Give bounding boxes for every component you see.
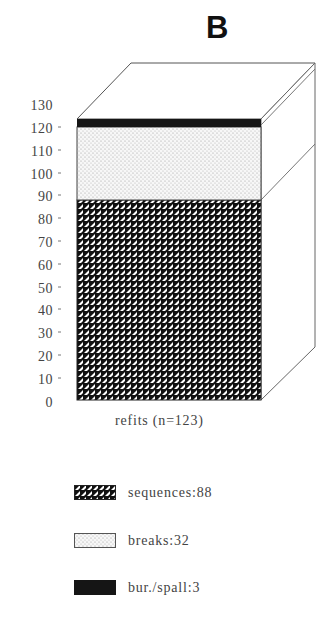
y-tick-label: 130 — [3, 98, 53, 114]
y-tick-label: 60 — [3, 258, 53, 274]
y-tick-label: 90 — [3, 189, 53, 205]
y-tick-label: 110 — [3, 144, 53, 160]
y-tick-label: 10 — [3, 372, 53, 388]
y-tick-label: 0 — [3, 395, 53, 411]
x-axis-label: refits (n=123) — [115, 413, 204, 429]
legend-label: breaks:32 — [128, 533, 190, 549]
y-tick-label: 50 — [3, 281, 53, 297]
y-tick-label: 120 — [3, 121, 53, 137]
y-tick-marks — [58, 127, 61, 378]
solid-swatch-icon — [74, 580, 116, 595]
legend-label: sequences:88 — [128, 485, 212, 501]
box-right-face — [261, 63, 315, 400]
legend-label: bur./spall:3 — [128, 580, 200, 596]
segment-sequences — [77, 200, 261, 400]
y-tick-label: 40 — [3, 303, 53, 319]
dot-pattern-swatch-icon — [74, 533, 116, 548]
segment-bur-spall — [77, 119, 261, 127]
y-tick-label: 100 — [3, 167, 53, 183]
checker-pattern-swatch-icon — [74, 485, 116, 500]
y-tick-label: 70 — [3, 235, 53, 251]
y-tick-label: 20 — [3, 349, 53, 365]
segment-breaks — [77, 127, 261, 200]
y-tick-label: 80 — [3, 212, 53, 228]
y-tick-label: 30 — [3, 326, 53, 342]
